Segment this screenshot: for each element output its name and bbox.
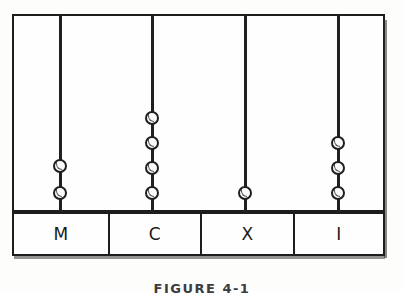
bead-C-3[interactable] — [145, 161, 159, 175]
bead-M-1[interactable] — [53, 159, 67, 173]
bead-C-2[interactable] — [145, 136, 159, 150]
abacus-frame — [12, 14, 385, 212]
rod-I — [337, 14, 340, 212]
column-cell-M: M — [14, 214, 110, 254]
bead-I-1[interactable] — [331, 136, 345, 150]
frame-scan-shadow-bottom — [14, 256, 385, 259]
bead-M-2[interactable] — [53, 186, 67, 200]
column-cell-I: I — [295, 214, 383, 254]
bead-C-4[interactable] — [145, 186, 159, 200]
bead-I-3[interactable] — [331, 186, 345, 200]
figure-caption: FIGURE 4-1 — [0, 281, 404, 296]
column-label-M: M — [53, 226, 68, 243]
column-cell-X: X — [202, 214, 295, 254]
column-label-C: C — [149, 226, 161, 243]
bead-X-1[interactable] — [238, 186, 252, 200]
bead-I-2[interactable] — [331, 161, 345, 175]
bead-C-1[interactable] — [145, 111, 159, 125]
rod-M — [59, 14, 62, 212]
column-label-row: MCXI — [12, 212, 385, 256]
rod-X — [244, 14, 247, 212]
column-label-X: X — [241, 226, 253, 243]
column-label-I: I — [336, 226, 342, 243]
column-cell-C: C — [110, 214, 202, 254]
